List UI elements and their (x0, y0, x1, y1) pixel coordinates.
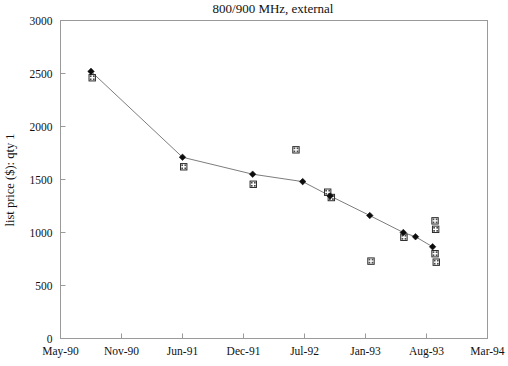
x-tick-label: Dec-91 (227, 345, 261, 357)
data-point-square (432, 226, 438, 232)
data-point-diamond (249, 171, 256, 178)
y-tick-label: 2500 (30, 68, 53, 80)
y-tick-label: 3000 (30, 15, 53, 27)
data-point-square (89, 75, 95, 81)
y-tick-label: 1000 (30, 227, 53, 239)
x-axis-tick-labels: May-90Nov-90Jun-91Dec-91Jul-92Jan-93Aug-… (42, 345, 505, 358)
data-point-square (433, 259, 439, 265)
data-point-diamond (299, 178, 306, 185)
data-point-square (368, 258, 374, 264)
y-tick-label: 0 (47, 333, 53, 345)
data-point-square (181, 164, 187, 170)
price-trend-chart: 800/900 MHz, external 050010001500200025… (0, 0, 508, 366)
y-axis-ticks (61, 21, 66, 339)
trend-line (91, 71, 433, 246)
x-axis-ticks (61, 334, 488, 339)
y-axis-tick-labels: 050010001500200025003000 (30, 15, 53, 345)
x-tick-label: Aug-93 (409, 345, 444, 358)
x-tick-label: Nov-90 (104, 345, 139, 357)
y-tick-label: 1500 (30, 174, 53, 186)
y-tick-label: 500 (35, 280, 53, 292)
chart-title: 800/900 MHz, external (213, 1, 334, 16)
data-point-square (250, 181, 256, 187)
data-point-diamond (412, 233, 419, 240)
y-axis-title: list price ($): qty 1 (3, 133, 17, 226)
series-observed-squares (89, 75, 439, 266)
data-point-square (293, 147, 299, 153)
series-trend-line (91, 71, 433, 246)
x-tick-label: Jan-93 (350, 345, 381, 357)
data-point-square (432, 251, 438, 257)
data-point-square (432, 218, 438, 224)
data-point-diamond (429, 244, 436, 251)
chart-container: 800/900 MHz, external 050010001500200025… (0, 0, 508, 366)
x-tick-label: May-90 (42, 345, 79, 358)
x-tick-label: Jun-91 (167, 345, 199, 357)
data-point-diamond (366, 212, 373, 219)
x-tick-label: Jul-92 (290, 345, 319, 357)
plot-frame (61, 21, 488, 339)
x-tick-label: Mar-94 (470, 345, 505, 357)
y-tick-label: 2000 (30, 121, 53, 133)
